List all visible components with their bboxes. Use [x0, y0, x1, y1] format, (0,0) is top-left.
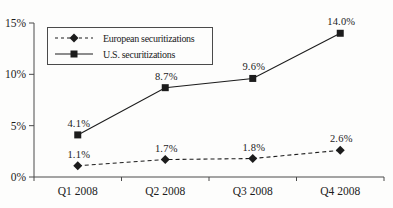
series-line-european-securitizations — [78, 150, 341, 165]
data-label-u-s-securitizations: 14.0% — [327, 16, 355, 27]
data-label-u-s-securitizations: 8.7% — [155, 71, 178, 82]
y-axis-tick-label: 10% — [5, 68, 27, 80]
x-category-label: Q2 2008 — [145, 185, 185, 197]
legend-label-us-securitizations: U.S. securitizations — [103, 49, 175, 60]
data-label-european-securitizations: 1.1% — [67, 149, 90, 160]
marker-diamond-european-securitizations — [248, 154, 257, 163]
chart-container: 0%5%10%15%Q1 2008Q2 2008Q3 2008Q4 20081.… — [0, 0, 393, 208]
dashed-line-diamond-marker-icon — [54, 32, 94, 44]
y-axis-tick-label: 15% — [5, 17, 27, 29]
marker-square-u-s-securitizations — [162, 84, 169, 91]
marker-diamond-european-securitizations — [161, 155, 170, 164]
solid-line-square-marker-icon — [54, 48, 94, 60]
y-axis-tick-label: 0% — [11, 171, 27, 183]
marker-square-u-s-securitizations — [337, 30, 344, 37]
chart-legend: European securitizations U.S. securitiza… — [47, 27, 213, 65]
x-category-label: Q3 2008 — [233, 185, 273, 197]
x-category-label: Q4 2008 — [320, 185, 360, 197]
marker-diamond-european-securitizations — [336, 146, 345, 155]
y-axis-tick-label: 5% — [11, 120, 27, 132]
marker-diamond-european-securitizations — [73, 161, 82, 170]
data-label-u-s-securitizations: 9.6% — [242, 61, 265, 72]
marker-square-u-s-securitizations — [249, 75, 256, 82]
data-label-european-securitizations: 2.6% — [330, 133, 353, 144]
data-label-european-securitizations: 1.7% — [155, 143, 178, 154]
marker-square-u-s-securitizations — [74, 131, 81, 138]
legend-item-european-securitizations: European securitizations — [54, 31, 206, 46]
legend-label-european-securitizations: European securitizations — [103, 33, 194, 44]
data-label-european-securitizations: 1.8% — [242, 142, 265, 153]
legend-item-us-securitizations: U.S. securitizations — [54, 47, 206, 62]
data-label-u-s-securitizations: 4.1% — [67, 118, 90, 129]
x-category-label: Q1 2008 — [58, 185, 98, 197]
